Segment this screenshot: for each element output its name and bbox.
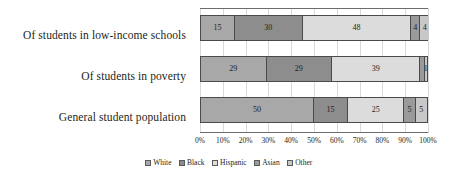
x-tick-70pct: 70%	[353, 136, 367, 145]
legend-label: Hispanic	[220, 158, 247, 167]
x-tick-100pct: 100%	[419, 136, 437, 145]
legend-swatch-icon	[254, 160, 260, 166]
x-tick-0pct: 0%	[195, 136, 205, 145]
legend-label: Asian	[262, 158, 280, 167]
bar-segment-asian: 5	[404, 98, 415, 122]
category-axis-labels: Of students in low-income schools Of stu…	[0, 8, 190, 130]
bar-segment-value: 15	[213, 24, 221, 32]
bar-segment-value: 1	[425, 65, 427, 73]
category-label-poverty: Of students in poverty	[81, 70, 186, 82]
bar-segment-value: 39	[372, 65, 380, 73]
bar-row: 15304844	[200, 15, 428, 41]
bar-segment-asian: 4	[411, 16, 420, 40]
bar-segment-value: 50	[253, 106, 261, 114]
x-tick-40pct: 40%	[284, 136, 298, 145]
bar-row: 2929391	[200, 56, 428, 82]
bar-segment-hispanic: 25	[348, 98, 405, 122]
legend-item-hispanic[interactable]: Hispanic	[212, 158, 247, 167]
bar-segment-value: 25	[372, 106, 380, 114]
bar-segment-other: 1	[425, 57, 427, 81]
x-tick-80pct: 80%	[376, 136, 390, 145]
legend-item-other[interactable]: Other	[287, 158, 313, 167]
plot-area: 15304844292939150152555	[200, 8, 428, 133]
legend-swatch-icon	[145, 160, 151, 166]
bar-segment-white: 29	[201, 57, 267, 81]
bar-segment-value: 30	[264, 24, 272, 32]
bar-segment-other: 5	[416, 98, 427, 122]
legend-label: Other	[295, 158, 312, 167]
x-tick-90pct: 90%	[398, 136, 412, 145]
x-tick-30pct: 30%	[262, 136, 276, 145]
bar-segment-value: 4	[423, 24, 427, 32]
stacked-bars: 15304844292939150152555	[200, 8, 428, 133]
bar-segment-value: 5	[419, 106, 423, 114]
bar-segment-value: 29	[295, 65, 303, 73]
bar-segment-hispanic: 39	[332, 57, 420, 81]
x-axis-tick-labels: 0%10%20%30%40%50%60%70%80%90%100%	[200, 136, 428, 148]
bar-segment-black: 29	[267, 57, 333, 81]
legend-item-white[interactable]: White	[145, 158, 172, 167]
category-label-low-income-schools: Of students in low-income schools	[23, 29, 186, 41]
x-tick-50pct: 50%	[307, 136, 321, 145]
x-tick-10pct: 10%	[216, 136, 230, 145]
bar-segment-value: 29	[229, 65, 237, 73]
bar-row: 50152555	[200, 97, 428, 123]
legend: WhiteBlackHispanicAsianOther	[0, 158, 457, 167]
bar-segment-other: 4	[420, 16, 429, 40]
chart-figure: Of students in low-income schools Of stu…	[0, 0, 457, 176]
bar-segment-white: 50	[201, 98, 314, 122]
bar-segment-value: 4	[413, 24, 417, 32]
legend-swatch-icon	[287, 160, 293, 166]
category-label-general-population: General student population	[59, 111, 186, 123]
bar-segment-hispanic: 48	[303, 16, 411, 40]
legend-item-black[interactable]: Black	[179, 158, 205, 167]
bar-segment-value: 48	[352, 24, 360, 32]
bar-segment-white: 15	[201, 16, 235, 40]
legend-swatch-icon	[179, 160, 185, 166]
legend-item-asian[interactable]: Asian	[254, 158, 280, 167]
legend-label: White	[153, 158, 171, 167]
bar-segment-black: 15	[314, 98, 348, 122]
bar-segment-black: 30	[235, 16, 303, 40]
legend-label: Black	[187, 158, 205, 167]
x-tick-60pct: 60%	[330, 136, 344, 145]
bar-segment-value: 5	[408, 106, 412, 114]
bar-segment-value: 15	[326, 106, 334, 114]
x-tick-20pct: 20%	[239, 136, 253, 145]
legend-swatch-icon	[212, 160, 218, 166]
